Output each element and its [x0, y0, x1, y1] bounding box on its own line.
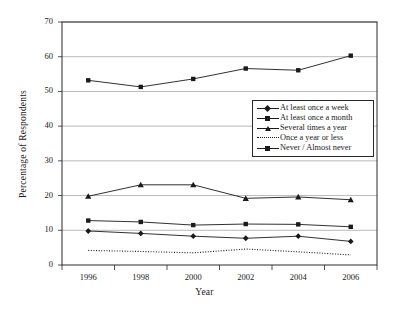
legend-marker-triangle-icon [256, 123, 280, 133]
x-axis-tick-label: 1996 [68, 272, 108, 282]
series-line [88, 249, 351, 255]
data-point-marker [349, 225, 353, 229]
y-axis-tick-label: 30 [31, 155, 53, 165]
chart-legend: At least once a week At least once a mon… [252, 100, 374, 157]
data-point-marker [244, 66, 248, 70]
data-point-marker [296, 68, 300, 72]
data-point-marker [191, 223, 195, 227]
legend-item-never-almost-never: Never / Almost never [256, 143, 370, 153]
y-axis-title: Percentage of Respondents [18, 64, 28, 224]
data-point-marker [139, 220, 143, 224]
data-point-marker [243, 235, 249, 241]
legend-marker-square-icon [256, 113, 280, 123]
data-point-marker [348, 238, 354, 244]
legend-marker-diamond-icon [256, 103, 280, 113]
x-axis-tick-label: 2000 [173, 272, 213, 282]
data-point-marker [295, 233, 301, 239]
y-axis-tick-label: 50 [31, 85, 53, 95]
data-point-marker [190, 233, 196, 239]
x-axis-tick-label: 2004 [278, 272, 318, 282]
data-point-marker [86, 78, 90, 82]
legend-label: At least once a week [280, 103, 349, 113]
series-line [88, 221, 351, 227]
legend-label: Several times a year [280, 123, 347, 133]
legend-label: Never / Almost never [280, 143, 351, 153]
series-line [88, 185, 351, 200]
y-axis-tick-label: 10 [31, 224, 53, 234]
data-point-marker [85, 228, 91, 234]
y-axis-tick-label: 20 [31, 190, 53, 200]
legend-label: Once a year or less [280, 133, 343, 143]
x-axis-tick-label: 1998 [121, 272, 161, 282]
legend-item-at-least-once-a-month: At least once a month [256, 113, 370, 123]
legend-item-at-least-once-a-week: At least once a week [256, 103, 370, 113]
legend-item-once-a-year-or-less: Once a year or less [256, 133, 370, 143]
x-axis-title: Year [0, 287, 409, 297]
data-point-marker [86, 218, 90, 222]
data-point-marker [244, 222, 248, 226]
y-axis-tick-label: 70 [31, 16, 53, 26]
legend-item-several-times-a-year: Several times a year [256, 123, 370, 133]
y-axis-tick-label: 40 [31, 120, 53, 130]
data-point-marker [139, 85, 143, 89]
data-point-marker [191, 77, 195, 81]
legend-marker-square-icon [256, 143, 280, 153]
series-line [88, 231, 351, 241]
legend-label: At least once a month [280, 113, 352, 123]
y-axis-tick-label: 0 [31, 259, 53, 269]
data-point-marker [349, 53, 353, 57]
x-axis-tick-label: 2006 [331, 272, 371, 282]
series-line [88, 56, 351, 87]
y-axis-tick-label: 60 [31, 51, 53, 61]
legend-marker-dotted-line-icon [256, 133, 280, 143]
data-point-marker [138, 231, 144, 237]
data-point-marker [296, 222, 300, 226]
x-axis-tick-label: 2002 [226, 272, 266, 282]
line-chart: Percentage of Respondents Year At least … [0, 0, 409, 311]
